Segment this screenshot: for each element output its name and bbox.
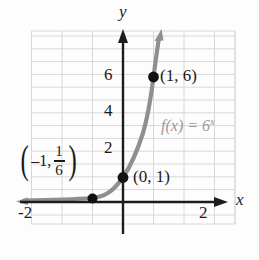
function-label-exponent: x: [210, 115, 215, 127]
open-paren: (: [21, 146, 29, 175]
data-point-neg1: [88, 194, 98, 204]
point-neg1-x: –1,: [31, 152, 51, 170]
fraction-denominator: 6: [53, 163, 65, 178]
x-axis-arrow: [214, 197, 228, 207]
y-axis-label: y: [119, 2, 127, 22]
y-tick-2: 2: [104, 138, 113, 158]
x-tick-neg2: -2: [18, 203, 32, 223]
fraction-one-sixth: 1 6: [53, 144, 65, 178]
function-label-text: f(x) = 6: [161, 117, 210, 134]
close-paren: ): [68, 146, 76, 175]
coordinate-plane: [0, 0, 259, 260]
function-label: f(x) = 6x: [161, 115, 215, 135]
point-label-0-1: (0, 1): [133, 167, 170, 187]
y-tick-6: 6: [104, 65, 113, 85]
point-label-neg1-one-sixth: ( –1, 1 6 ): [18, 144, 79, 178]
graph-figure: y x 6 4 2 -2 2 (1, 6) (0, 1) f(x) = 6x (…: [0, 0, 259, 260]
data-point-origin-1: [118, 172, 129, 183]
x-axis-label: x: [236, 190, 244, 210]
y-tick-4: 4: [104, 101, 113, 121]
data-point-1-6: [148, 72, 159, 83]
x-tick-2: 2: [199, 203, 208, 223]
fraction-numerator: 1: [53, 144, 65, 159]
point-label-1-6: (1, 6): [160, 66, 197, 86]
